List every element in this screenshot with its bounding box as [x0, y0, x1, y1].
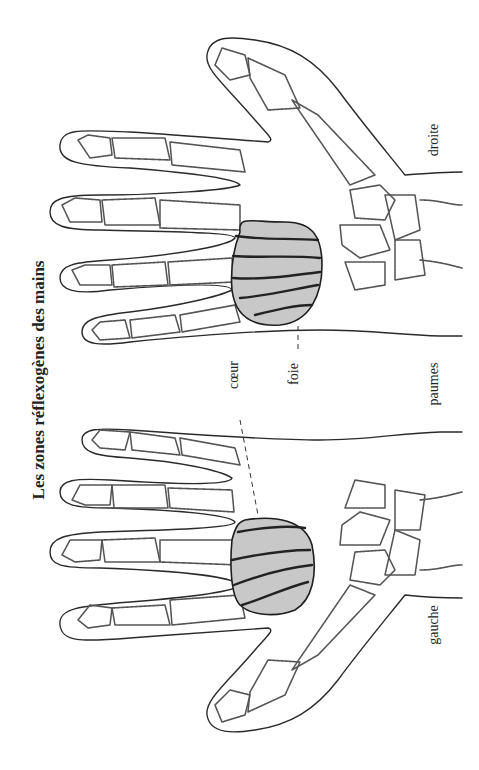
zone-label-foie: foie — [286, 363, 301, 385]
zone-coeur — [231, 518, 314, 614]
zone-foie — [232, 221, 322, 326]
reflexology-figure: Les zones réflexogènes des mains — [0, 0, 479, 770]
right-hand — [50, 38, 462, 344]
hand-label-left: gauche — [426, 605, 441, 645]
leader-coeur — [240, 420, 258, 515]
left-hand — [50, 429, 462, 732]
caption-paumes: paumes — [426, 363, 441, 406]
figure-title: Les zones réflexogènes des mains — [29, 260, 48, 499]
hand-label-right: droite — [426, 124, 441, 157]
zone-label-coeur: cœur — [226, 361, 241, 389]
